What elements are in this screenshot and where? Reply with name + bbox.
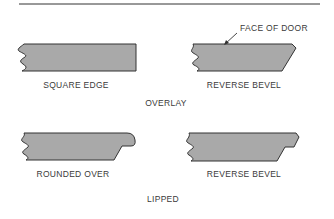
square-edge-profile <box>18 44 136 71</box>
door-edge-diagram: FACE OF DOOR SQUARE EDGE REVERSE BEVEL O… <box>0 0 334 219</box>
label-reverse-bevel-overlay: REVERSE BEVEL <box>207 80 281 90</box>
label-reverse-bevel-lipped: REVERSE BEVEL <box>207 169 281 179</box>
group-label-overlay: OVERLAY <box>145 98 187 108</box>
group-label-lipped: LIPPED <box>147 194 179 204</box>
face-of-door-callout: FACE OF DOOR <box>240 23 308 33</box>
reverse-bevel-overlay-profile <box>192 44 296 71</box>
rounded-over-profile <box>22 133 136 160</box>
reverse-bevel-lipped-profile <box>187 133 299 161</box>
label-square-edge: SQUARE EDGE <box>43 80 109 90</box>
label-rounded-over: ROUNDED OVER <box>36 169 109 179</box>
